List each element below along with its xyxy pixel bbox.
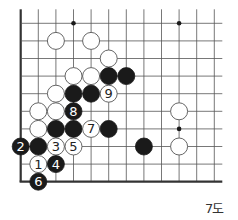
star-point [71, 21, 76, 26]
white-stone [83, 32, 100, 49]
move-number: 4 [52, 157, 60, 172]
move-number: 6 [34, 174, 42, 189]
stone-body [65, 120, 82, 137]
white-stone-move-9: 9 [100, 85, 117, 102]
white-stone-move-5: 5 [65, 138, 82, 155]
stone-body [83, 85, 100, 102]
move-number: 3 [52, 139, 60, 154]
move-number: 5 [69, 139, 77, 154]
white-stone [47, 103, 64, 120]
white-stone-move-1: 1 [30, 156, 47, 173]
white-stone-move-3: 3 [47, 138, 64, 155]
white-stone-move-7: 7 [83, 120, 100, 137]
stone-body [118, 68, 135, 85]
black-stone [118, 68, 135, 85]
stone-body [100, 68, 117, 85]
stone-body [47, 85, 64, 102]
stone-body [100, 120, 117, 137]
stone-body [65, 85, 82, 102]
stone-body [171, 103, 188, 120]
black-stone [83, 85, 100, 102]
black-stone [30, 138, 47, 155]
move-number: 9 [105, 86, 113, 101]
stone-body [65, 68, 82, 85]
black-stone [65, 85, 82, 102]
black-stone-move-4: 4 [47, 156, 64, 173]
move-number: 2 [17, 139, 25, 154]
move-number: 1 [34, 157, 42, 172]
white-stone [65, 68, 82, 85]
white-stone [30, 120, 47, 137]
stone-body [171, 138, 188, 155]
stone-body [30, 103, 47, 120]
white-stone [47, 32, 64, 49]
move-number: 8 [69, 104, 77, 119]
white-stone [30, 103, 47, 120]
stone-body [100, 50, 117, 67]
black-stone-move-2: 2 [12, 138, 29, 155]
stone-body [47, 103, 64, 120]
white-stone [83, 68, 100, 85]
white-stone [47, 85, 64, 102]
stone-body [135, 138, 152, 155]
white-stone [171, 103, 188, 120]
black-stone [135, 138, 152, 155]
stone-body [30, 138, 47, 155]
star-point [177, 21, 182, 26]
diagram-caption: 7도 [205, 198, 223, 217]
go-board: 987235146 [0, 0, 238, 220]
black-stone-move-8: 8 [65, 103, 82, 120]
black-stone [47, 120, 64, 137]
stone-body [83, 68, 100, 85]
black-stone [100, 68, 117, 85]
black-stone [100, 120, 117, 137]
stone-body [83, 32, 100, 49]
stone-body [30, 120, 47, 137]
stone-body [47, 120, 64, 137]
black-stone [65, 120, 82, 137]
stone-body [47, 32, 64, 49]
black-stone-move-6: 6 [30, 173, 47, 190]
move-number: 7 [87, 121, 95, 136]
white-stone [171, 138, 188, 155]
white-stone [100, 50, 117, 67]
star-point [177, 127, 182, 132]
